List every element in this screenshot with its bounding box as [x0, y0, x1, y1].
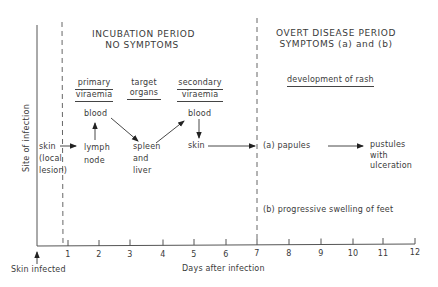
stage-primary-viraemia: primary viraemia [75, 78, 113, 102]
secondary-label: secondary [177, 78, 223, 90]
primary-label: primary [75, 78, 113, 90]
node-blood-secondary: blood [188, 109, 211, 119]
tick-label-8: 8 [284, 249, 294, 259]
y-axis-label: Site of infection [22, 104, 31, 172]
node-papules: (a) papules [263, 141, 310, 151]
viraemia-label: viraemia [75, 90, 113, 102]
node-skin-local-lesion: skin (local lesion) [39, 141, 67, 177]
skin-infected-label: Skin infected [11, 265, 66, 275]
tick-label-9: 9 [316, 249, 326, 259]
skin-local-line2: (local [39, 153, 67, 165]
tick-label-5: 5 [189, 250, 199, 260]
lymph-line2: node [84, 154, 110, 167]
tick-label-7: 7 [252, 249, 262, 259]
stage-target-organs: target organs [127, 78, 161, 100]
rash-label: development of rash [287, 75, 374, 87]
tick-label-12: 12 [407, 248, 423, 258]
node-skin-secondary: skin [188, 141, 205, 151]
target-label: target [127, 78, 161, 88]
node-swelling-of-feet: (b) progressive swelling of feet [263, 205, 393, 215]
node-pustules: pustules with ulceration [370, 140, 412, 172]
spleen-line2: and [133, 153, 161, 165]
tick-label-1: 1 [63, 250, 73, 260]
spleen-line3: liver [133, 165, 161, 177]
incubation-title-line1: INCUBATION PERIOD [92, 29, 192, 40]
organs-label: organs [127, 88, 161, 100]
tick-label-11: 11 [375, 249, 391, 259]
skin-local-line3: lesion) [39, 165, 67, 177]
tick-label-4: 4 [158, 250, 168, 260]
overt-title-line1: OVERT DISEASE PERIOD [268, 28, 404, 39]
arrow-blood-to-spleen [111, 118, 138, 141]
pustules-line1: pustules [370, 140, 412, 151]
tick-label-3: 3 [125, 250, 135, 260]
pustules-line3: ulceration [370, 161, 412, 172]
incubation-title-line2: NO SYMPTOMS [92, 40, 192, 51]
tick-label-6: 6 [221, 250, 231, 260]
spleen-line1: spleen [133, 141, 161, 153]
incubation-start-divider [62, 22, 63, 246]
overt-disease-title: OVERT DISEASE PERIOD SYMPTOMS (a) and (b… [268, 28, 404, 50]
node-spleen-liver: spleen and liver [133, 141, 161, 177]
viraemia-2-label: viraemia [177, 90, 223, 102]
tick-label-10: 10 [345, 249, 361, 259]
x-axis-label: Days after infection [182, 264, 265, 274]
node-lymph-node: lymph node [84, 141, 110, 167]
overt-title-line2: SYMPTOMS (a) and (b) [268, 39, 404, 50]
pustules-line2: with [370, 151, 412, 162]
stage-development-of-rash: development of rash [287, 75, 374, 87]
node-blood-primary: blood [84, 109, 107, 119]
skin-local-line1: skin [39, 141, 67, 153]
incubation-period-title: INCUBATION PERIOD NO SYMPTOMS [92, 29, 192, 51]
arrow-spleen-to-blood [156, 121, 184, 143]
lymph-line1: lymph [84, 141, 110, 154]
stage-secondary-viraemia: secondary viraemia [177, 78, 223, 102]
tick-label-2: 2 [94, 250, 104, 260]
